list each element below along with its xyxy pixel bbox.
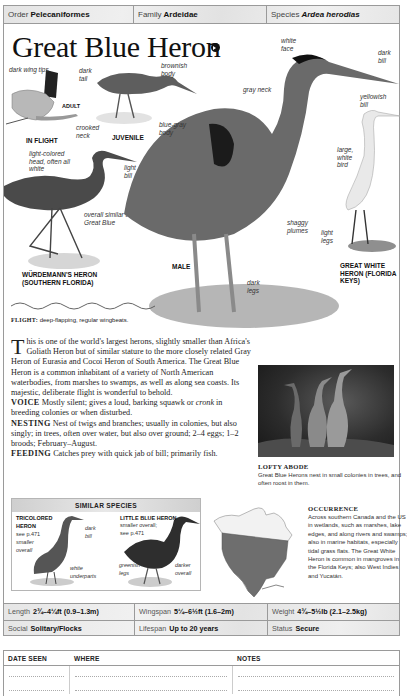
voice-text-a: Mostly silent; gives a loud, barking squ… <box>42 398 194 407</box>
stat-length-value: 2¾–4¼ft (0.9–1.3m) <box>33 607 99 616</box>
feeding-label: FEEDING <box>11 449 51 458</box>
label-light-colored-head: light-colored head, often all white <box>29 150 75 173</box>
stat-weight-value: 4¾–5½lb (2.1–2.5kg) <box>297 607 367 616</box>
great-white-heron-illustration <box>334 106 404 256</box>
species-label: Species <box>271 10 299 19</box>
occurrence-title: OCCURRENCE <box>308 505 358 512</box>
herons-photo-image <box>258 365 394 457</box>
notes-field[interactable] <box>233 666 399 680</box>
label-dark-legs: dark legs <box>247 279 265 294</box>
flight-text: deep-flapping, regular wingbeats. <box>40 317 129 323</box>
little-blue-label-darker-overall: darker overall <box>175 562 199 577</box>
sighting-log-table: DATE SEEN WHERE NOTES <box>3 650 400 696</box>
intro-text: his is one of the world's largest herons… <box>11 337 251 397</box>
range-map-north-america <box>204 501 304 601</box>
label-adult: ADULT <box>62 103 80 111</box>
label-gray-neck: gray neck <box>243 86 271 94</box>
label-dark-wing-tips: dark wing tips <box>9 66 49 74</box>
where-field[interactable] <box>70 666 233 680</box>
flight-pattern-wave-icon <box>11 300 151 312</box>
stat-weight: Weight4¾–5½lb (2.1–2.5kg) <box>268 604 399 620</box>
sighting-log-header: DATE SEEN WHERE NOTES <box>4 651 399 666</box>
feeding-text: Catches prey with quick jab of bill; pri… <box>53 449 217 458</box>
stat-lifespan-label: Lifespan <box>139 624 166 633</box>
order-label: Order <box>8 10 28 19</box>
header-notes: NOTES <box>233 651 399 665</box>
stat-status: StatusSecure <box>268 621 399 636</box>
family-cell: FamilyArdeidae <box>134 6 267 24</box>
stats-row-life: SocialSolitary/Flocks LifespanUp to 20 y… <box>4 620 399 636</box>
caption-wurdemanns-heron: WÜRDEMANN'S HERON (SOUTHERN FLORIDA) <box>22 271 122 286</box>
sighting-log-row <box>4 666 399 680</box>
stats-row-size: Length2¾–4¼ft (0.9–1.3m) Wingspan5¼–6½ft… <box>4 604 399 620</box>
nesting-label: NESTING <box>11 419 51 428</box>
caption-great-white-heron: GREAT WHITE HERON (FLORIDA KEYS) <box>340 262 402 285</box>
stat-social-value: Solitary/Flocks <box>31 624 82 633</box>
field-guide-page: OrderPelecaniformes FamilyArdeidae Speci… <box>3 5 400 636</box>
similar-species-box: SIMILAR SPECIES TRICOLORED HERON see p.4… <box>11 498 201 591</box>
label-yellowish-bill: yellowish bill <box>360 93 396 108</box>
where-field[interactable] <box>70 680 233 694</box>
stat-lifespan: LifespanUp to 20 years <box>135 621 268 636</box>
stat-social-label: Social <box>8 624 28 633</box>
voice-paragraph: VOICE Mostly silent; gives a loud, barki… <box>11 398 251 418</box>
heron-in-flight-illustration <box>6 68 81 133</box>
flight-label: FLIGHT: <box>11 317 38 323</box>
header-date-seen: DATE SEEN <box>4 651 70 665</box>
stats-table: Length2¾–4¼ft (0.9–1.3m) Wingspan5¼–6½ft… <box>3 603 400 636</box>
little-blue-heron-ref: smaller overall; see p.471 <box>120 522 160 537</box>
stat-wingspan-label: Wingspan <box>139 607 171 616</box>
stat-weight-label: Weight <box>272 607 294 616</box>
little-blue-label-greenish-legs: greenish legs <box>119 562 141 577</box>
species-value: Ardea herodias <box>301 10 359 19</box>
label-white-face: white face <box>281 37 303 52</box>
label-light-legs: light legs <box>321 229 339 244</box>
order-value: Pelecaniformes <box>30 10 89 19</box>
tricolored-heron-ref: see p.471 <box>16 531 40 539</box>
stat-lifespan-value: Up to 20 years <box>169 624 218 633</box>
stat-status-value: Secure <box>295 624 319 633</box>
stat-wingspan-value: 5¼–6½ft (1.6–2m) <box>174 607 234 616</box>
nesting-paragraph: NESTING Nest of twigs and branches; usua… <box>11 419 251 450</box>
order-cell: OrderPelecaniformes <box>4 6 134 24</box>
sighting-log-row <box>4 680 399 694</box>
caption-in-flight: IN FLIGHT <box>26 137 58 145</box>
stat-length-label: Length <box>8 607 30 616</box>
caption-male: MALE <box>172 263 190 271</box>
date-seen-field[interactable] <box>4 666 70 680</box>
photo-caption-text: Great Blue Herons nest in small colonies… <box>258 471 407 487</box>
similar-species-header: SIMILAR SPECIES <box>12 499 200 512</box>
label-large-white-bird: large, white bird <box>337 146 359 169</box>
notes-field[interactable] <box>233 680 399 694</box>
label-blue-gray-body: blue-gray body <box>159 121 189 136</box>
occurrence-text: Across southern Canada and the US in wet… <box>308 513 407 580</box>
species-cell: SpeciesArdea herodias <box>267 6 399 24</box>
feeding-paragraph: FEEDING Catches prey with quick jab of b… <box>11 449 251 459</box>
stat-wingspan: Wingspan5¼–6½ft (1.6–2m) <box>135 604 268 620</box>
tricolored-label-dark-bill: dark bill <box>85 525 101 540</box>
stat-length: Length2¾–4¼ft (0.9–1.3m) <box>4 604 135 620</box>
voice-label: VOICE <box>11 398 40 407</box>
drop-cap: T <box>11 338 24 356</box>
species-description: This is one of the world's largest heron… <box>11 337 251 459</box>
family-label: Family <box>138 10 162 19</box>
date-seen-field[interactable] <box>4 680 70 694</box>
label-shaggy-plumes: shaggy plumes <box>287 219 311 234</box>
taxonomy-bar: OrderPelecaniformes FamilyArdeidae Speci… <box>4 6 399 24</box>
photo-caption-title: LOFTY ABODE <box>258 463 309 470</box>
stat-status-label: Status <box>272 624 292 633</box>
tricolored-label-white-underparts: white underparts <box>70 565 100 580</box>
label-dark-bill: dark bill <box>378 49 396 64</box>
tricolored-heron-name: TRICOLORED HERON <box>16 515 56 530</box>
header-where: WHERE <box>70 651 233 665</box>
tricolored-heron-note: smaller overall <box>16 539 40 554</box>
label-dark-tail: dark tail <box>79 67 99 82</box>
intro-paragraph: This is one of the world's largest heron… <box>11 337 251 398</box>
family-value: Ardeidae <box>164 10 198 19</box>
stat-social: SocialSolitary/Flocks <box>4 621 135 636</box>
nesting-herons-photo <box>258 365 394 457</box>
flight-description: FLIGHT: deep-flapping, regular wingbeats… <box>11 317 128 323</box>
voice-italic: cronk <box>196 398 214 407</box>
